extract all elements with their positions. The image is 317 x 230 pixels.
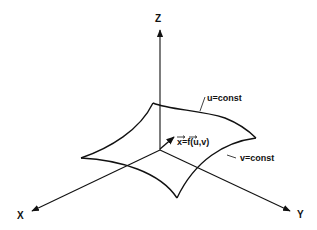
- u-const-label: u=const: [207, 93, 242, 103]
- position-vector-label: x=f(u,v): [177, 137, 209, 147]
- z-axis-label: Z: [155, 13, 161, 24]
- y-axis-label: Y: [297, 209, 304, 220]
- surface-diagram: Z X Y x=f(u,v) u=const v=const: [0, 0, 317, 230]
- x-axis-label: X: [17, 210, 24, 221]
- v-const-leader: [227, 155, 236, 158]
- surface-patch: [81, 103, 256, 198]
- u-const-leader: [200, 97, 205, 111]
- position-vector-arrow: [160, 137, 174, 149]
- v-const-label: v=const: [240, 153, 274, 163]
